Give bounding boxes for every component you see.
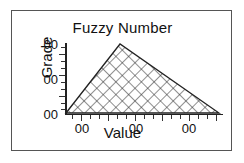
y-axis-tick [61,103,65,104]
y-axis-tick [59,96,65,97]
x-axis-tick [126,115,127,119]
x-axis-tick [108,115,109,121]
y-axis-tick [61,68,65,69]
y-axis-tick-label: 00 [44,107,58,122]
membership-function-plot [65,43,233,117]
y-axis-tick [61,47,65,48]
y-axis-tick [61,109,65,110]
y-axis-tick [61,89,65,90]
y-axis-tick [61,82,65,83]
figure-border: Fuzzy Number [11,10,232,151]
x-axis-tick [162,115,163,121]
x-axis-tick [90,115,91,119]
x-axis-tick [144,115,145,119]
x-axis-tick [207,115,208,119]
x-axis-tick [216,115,217,121]
y-axis-label: Grade [38,28,55,88]
x-axis-label: Value [12,124,233,141]
y-axis-line [65,43,67,115]
x-axis-tick [72,115,73,119]
y-axis-tick [61,61,65,62]
x-axis-tick [171,115,172,119]
x-axis-tick [117,115,118,119]
x-axis-tick [153,115,154,119]
x-axis-tick [198,115,199,119]
x-axis-tick [180,115,181,119]
y-axis-tick [59,75,65,76]
plot-area: 00 00 00 00 00 00 [65,43,233,117]
fuzzy-triangle-fill [66,44,219,113]
y-axis-tick [59,54,65,55]
x-axis-tick [99,115,100,119]
